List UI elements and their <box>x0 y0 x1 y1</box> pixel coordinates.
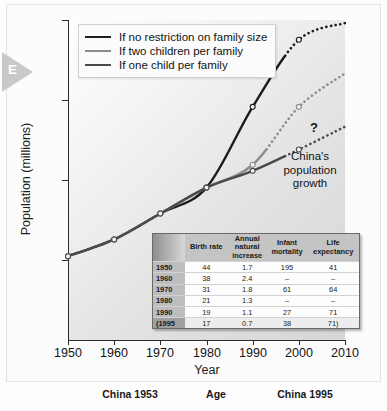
cell-birth-rate: 17 <box>185 318 228 329</box>
x-tick-mark-1950 <box>68 340 69 345</box>
table-body: 1950441.7195411960382.4––1970311.8616419… <box>153 262 359 329</box>
bottom-figure-labels: China 1953 Age China 1995 <box>0 388 387 411</box>
table-row: 1960382.4–– <box>153 273 359 284</box>
cell-life-expectancy: 64 <box>307 284 359 295</box>
legend-swatch-two-children <box>85 50 111 52</box>
cell-natural-increase: 1.1 <box>228 306 267 317</box>
cell-birth-rate: 21 <box>185 295 228 306</box>
cell-life-expectancy: 41 <box>307 262 359 273</box>
legend-item-one-child: If one child per family <box>85 58 267 72</box>
cell-year: 1980 <box>153 295 185 306</box>
table-header-row: Birth rate Annual natural increase Infan… <box>153 234 359 262</box>
bottom-label-china-1953: China 1953 <box>102 388 157 400</box>
table-header: Birth rate Annual natural increase Infan… <box>153 234 359 262</box>
cell-infant-mortality: 61 <box>267 284 308 295</box>
cell-life-expectancy: 71 <box>307 306 359 317</box>
cell-year: 1950 <box>153 262 185 273</box>
legend-label-one-child: If one child per family <box>119 59 228 71</box>
cell-birth-rate: 31 <box>185 284 228 295</box>
cell-natural-increase: 1.8 <box>228 284 267 295</box>
cell-natural-increase: 2.4 <box>228 273 267 284</box>
cell-infant-mortality: – <box>267 295 308 306</box>
cell-birth-rate: 44 <box>185 262 228 273</box>
cell-year: 1960 <box>153 273 185 284</box>
x-tick-mark-1970 <box>160 340 161 345</box>
question-mark-annotation: ? <box>310 120 318 135</box>
caption-line-3: growth <box>268 177 352 191</box>
header-line: increase <box>229 252 266 260</box>
x-tick-mark-2000 <box>299 340 300 345</box>
cell-life-expectancy: – <box>307 273 359 284</box>
header-line: mortality <box>268 248 307 256</box>
x-tick-mark-2010 <box>345 340 346 345</box>
table-row: 1990191.12771 <box>153 306 359 317</box>
cell-infant-mortality: 27 <box>267 306 308 317</box>
cell-year: (1995 <box>153 318 185 329</box>
cell-natural-increase: 1.3 <box>228 295 267 306</box>
cell-infant-mortality: – <box>267 273 308 284</box>
x-tick-label-2010: 2010 <box>331 346 359 360</box>
y-axis-line <box>68 20 69 340</box>
y-tick-mark-2000 <box>62 20 68 21</box>
x-tick-mark-1960 <box>114 340 115 345</box>
bottom-label-china-1995: China 1995 <box>277 388 332 400</box>
demographic-inset-table: Birth rate Annual natural increase Infan… <box>152 233 360 329</box>
x-tick-label-1960: 1960 <box>100 346 128 360</box>
x-tick-label-1990: 1990 <box>239 346 267 360</box>
legend-label-no-restriction: If no restriction on family size <box>119 31 267 43</box>
table-row: (1995170.73871) <box>153 318 359 329</box>
legend-item-two-children: If two children per family <box>85 44 267 58</box>
y-tick-mark-1500 <box>62 100 68 101</box>
legend-swatch-one-child <box>85 64 111 66</box>
cell-life-expectancy: – <box>307 295 359 306</box>
x-tick-label-1970: 1970 <box>146 346 174 360</box>
caption-line-2: population <box>268 164 352 178</box>
table-header-infant-mortality: Infant mortality <box>267 234 308 262</box>
cell-infant-mortality: 38 <box>267 318 308 329</box>
cell-year: 1970 <box>153 284 185 295</box>
header-line: expectancy <box>308 248 358 256</box>
y-axis-title: Population (millions) <box>19 79 33 279</box>
bottom-label-age: Age <box>206 388 226 400</box>
chart-caption: China's population growth <box>268 150 352 191</box>
cell-birth-rate: 38 <box>185 273 228 284</box>
x-tick-label-1950: 1950 <box>54 346 82 360</box>
table-row: 1970311.86164 <box>153 284 359 295</box>
china-population-chart: 2,000 1,500 1,000 500 0 Population (mill… <box>0 0 387 385</box>
cell-birth-rate: 19 <box>185 306 228 317</box>
header-line: Birth rate <box>186 243 227 251</box>
table-row: 1980211.3–– <box>153 295 359 306</box>
table-header-natural-increase: Annual natural increase <box>228 234 267 262</box>
x-tick-label-2000: 2000 <box>285 346 313 360</box>
cell-natural-increase: 0.7 <box>228 318 267 329</box>
legend-label-two-children: If two children per family <box>119 45 243 57</box>
caption-line-1: China's <box>268 150 352 164</box>
figure-container: E 2,000 1,500 1,000 500 0 Population (mi… <box>0 0 387 411</box>
chart-legend: If no restriction on family size If two … <box>78 24 276 78</box>
legend-item-no-restriction: If no restriction on family size <box>85 30 267 44</box>
cell-year: 1990 <box>153 306 185 317</box>
x-axis-title: Year <box>68 363 346 377</box>
table-header-life-expectancy: Life expectancy <box>307 234 359 262</box>
cell-life-expectancy: 71) <box>307 318 359 329</box>
y-tick-mark-1000 <box>62 180 68 181</box>
x-tick-label-1980: 1980 <box>193 346 221 360</box>
cell-infant-mortality: 195 <box>267 262 308 273</box>
legend-swatch-no-restriction <box>85 36 111 38</box>
cell-natural-increase: 1.7 <box>228 262 267 273</box>
table-header-birth-rate: Birth rate <box>185 234 228 262</box>
x-tick-mark-1980 <box>207 340 208 345</box>
y-tick-mark-500 <box>62 260 68 261</box>
table-corner-header <box>153 234 185 262</box>
table-row: 1950441.719541 <box>153 262 359 273</box>
x-tick-mark-1990 <box>253 340 254 345</box>
